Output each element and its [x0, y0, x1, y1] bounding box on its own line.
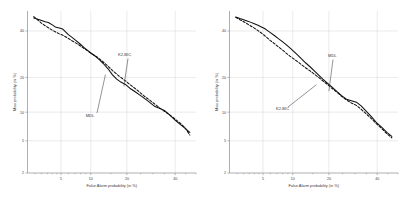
x-tick-label: 20: [125, 177, 129, 181]
x-tick-label: 40: [375, 177, 379, 181]
annotation-leader-line: [288, 85, 316, 107]
det-plot-svg: 510204025102040False Alarm probability (…: [0, 0, 201, 201]
y-tick-label: 40: [20, 29, 24, 33]
x-axis-label: False Alarm probability (in %): [86, 183, 137, 188]
x-tick-label: 40: [173, 177, 177, 181]
y-tick-label: 5: [224, 139, 226, 143]
grid-lines: [28, 11, 197, 173]
series-curve-mdl: [236, 17, 392, 136]
annotation-label: K2-BIC: [276, 106, 289, 111]
det-plot-panel-left: 510204025102040False Alarm probability (…: [0, 0, 201, 201]
tick-marks: 510204025102040: [20, 29, 196, 181]
annotation-label: K2-BIC: [118, 52, 131, 57]
y-tick-label: 2: [224, 171, 226, 175]
grid-lines: [230, 11, 399, 173]
y-axis-label: Miss probability (in %): [12, 72, 17, 111]
series-curve-mdl: [34, 18, 190, 132]
x-axis-label: False Alarm probability (in %): [288, 183, 339, 188]
y-tick-label: 10: [222, 111, 226, 115]
y-tick-label: 2: [22, 171, 24, 175]
y-tick-label: 20: [20, 76, 24, 80]
series-curve-k2-bic: [34, 17, 190, 136]
y-axis-label: Miss probability (in %): [214, 72, 219, 111]
x-tick-label: 5: [262, 177, 264, 181]
x-tick-label: 5: [60, 177, 62, 181]
annotation-label: MDL: [86, 113, 95, 118]
y-tick-label: 5: [22, 139, 24, 143]
annotation-label: MDL: [328, 53, 337, 58]
y-tick-label: 10: [20, 111, 24, 115]
y-tick-label: 20: [222, 76, 226, 80]
det-plot-figure: 510204025102040False Alarm probability (…: [0, 0, 403, 201]
det-plot-svg: 510204025102040False Alarm probability (…: [202, 0, 403, 201]
det-plot-panel-right: 510204025102040False Alarm probability (…: [202, 0, 403, 201]
axis-lines: [230, 11, 399, 173]
x-tick-label: 10: [89, 177, 93, 181]
axis-lines: [28, 11, 197, 173]
annotation-leader-line: [97, 75, 105, 113]
tick-marks: 510204025102040: [222, 29, 398, 181]
x-tick-label: 10: [291, 177, 295, 181]
x-tick-label: 20: [327, 177, 331, 181]
y-tick-label: 40: [222, 29, 226, 33]
